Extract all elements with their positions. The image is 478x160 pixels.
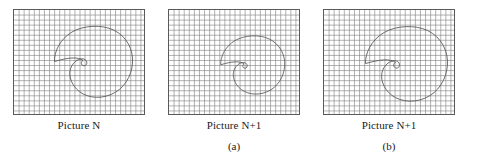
comma-spiral-shape-1 <box>14 10 145 115</box>
comma-spiral-shape-2 <box>169 10 300 115</box>
caption-picture-n-plus-1-a: Picture N+1 <box>168 118 300 132</box>
comma-spiral-shape-3 <box>324 10 455 115</box>
subcaption-a: (a) <box>168 139 300 153</box>
caption-picture-n-plus-1-b: Picture N+1 <box>323 118 455 132</box>
panel-picture-n <box>13 9 145 115</box>
figure-container: Picture N <box>0 0 478 160</box>
grid-box-2 <box>168 9 300 115</box>
subcaption-b: (b) <box>323 139 455 153</box>
panel-picture-n-plus-1-b <box>323 9 455 115</box>
grid-box-3 <box>323 9 455 115</box>
panel-picture-n-plus-1-a <box>168 9 300 115</box>
caption-picture-n: Picture N <box>13 118 145 132</box>
grid-box-1 <box>13 9 145 115</box>
